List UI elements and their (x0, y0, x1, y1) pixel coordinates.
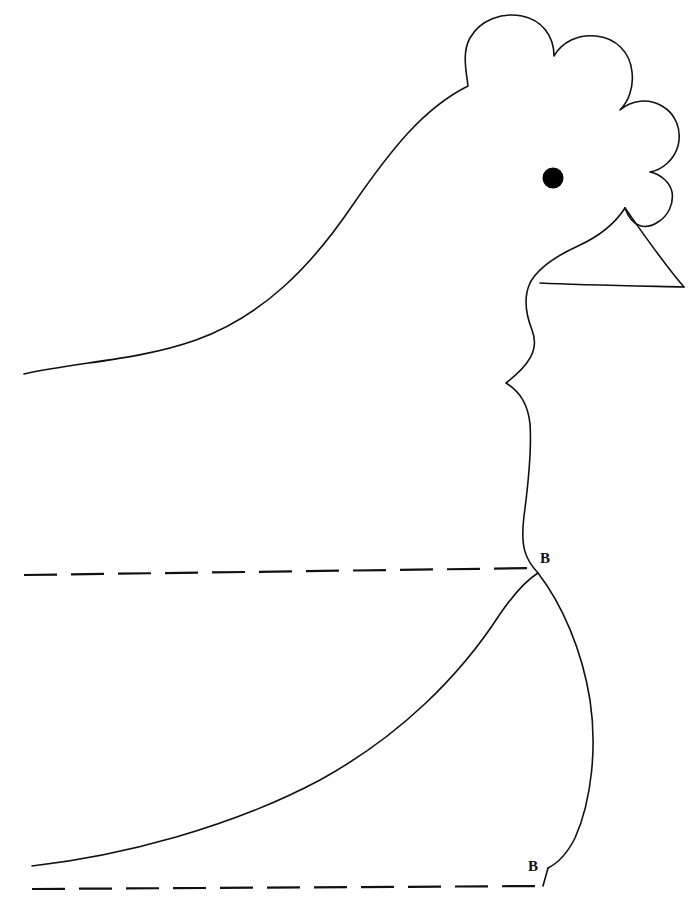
eye-dot (543, 168, 564, 189)
pattern-drawing (0, 0, 700, 899)
pattern-sheet: B B (0, 0, 700, 899)
sheet-background (0, 0, 700, 899)
notch-label-b-upper: B (540, 551, 550, 566)
notch-label-b-lower: B (528, 859, 538, 874)
